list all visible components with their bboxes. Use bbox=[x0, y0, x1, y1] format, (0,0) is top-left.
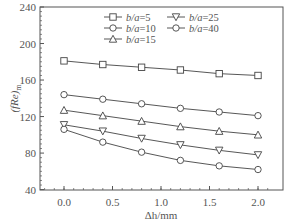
x-tick-label: 1.5 bbox=[203, 196, 217, 208]
x-tick-label: 2.0 bbox=[251, 196, 265, 208]
line-chart: 40801201602002400.00.51.01.52.0Δh/mm(fRe… bbox=[0, 0, 286, 221]
y-tick-label: 240 bbox=[20, 1, 37, 13]
series-b-a-15 bbox=[60, 106, 261, 138]
y-tick-label: 80 bbox=[25, 147, 37, 159]
x-tick-label: 0.0 bbox=[57, 196, 71, 208]
legend-item: b/a=25 bbox=[189, 12, 219, 23]
y-tick-label: 40 bbox=[25, 184, 37, 196]
legend-item: b/a=40 bbox=[189, 23, 219, 34]
series-b-a-10 bbox=[61, 91, 261, 118]
legend-item: b/a=10 bbox=[126, 23, 156, 34]
y-tick-label: 120 bbox=[20, 111, 37, 123]
x-tick-label: 1.0 bbox=[154, 196, 168, 208]
legend: b/a=5b/a=10b/a=15b/a=25b/a=40 bbox=[104, 12, 219, 45]
y-tick-label: 160 bbox=[20, 74, 37, 86]
legend-item: b/a=15 bbox=[126, 34, 156, 45]
plot-frame bbox=[40, 7, 283, 190]
series-b-a-25 bbox=[60, 122, 261, 159]
y-tick-label: 200 bbox=[20, 38, 37, 50]
x-tick-label: 0.5 bbox=[106, 196, 120, 208]
y-axis-label: (fRe)m bbox=[8, 84, 23, 113]
series-b-a-40 bbox=[61, 126, 261, 173]
x-axis-label: Δh/mm bbox=[145, 209, 178, 221]
legend-item: b/a=5 bbox=[126, 12, 151, 23]
series-b-a-5 bbox=[61, 58, 261, 79]
